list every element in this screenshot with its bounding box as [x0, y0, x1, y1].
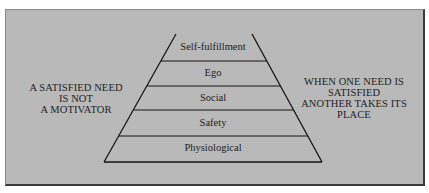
level-physiological: Physiological [133, 142, 293, 154]
level-safety: Safety [133, 117, 293, 129]
right-note: WHEN ONE NEED IS SATISFIED ANOTHER TAKES… [292, 76, 416, 120]
left-note-line: A MOTIVATOR [20, 104, 132, 115]
level-self-fulfillment: Self-fulfillment [133, 41, 293, 53]
left-note-line: A SATISFIED NEED [20, 82, 132, 93]
right-note-line: ANOTHER TAKES ITS [292, 98, 416, 109]
right-note-line: PLACE [292, 109, 416, 120]
left-note: A SATISFIED NEED IS NOT A MOTIVATOR [20, 82, 132, 115]
level-social: Social [133, 92, 293, 104]
level-ego: Ego [133, 67, 293, 79]
right-note-line: WHEN ONE NEED IS [292, 76, 416, 87]
right-note-line: SATISFIED [292, 87, 416, 98]
left-note-line: IS NOT [20, 93, 132, 104]
